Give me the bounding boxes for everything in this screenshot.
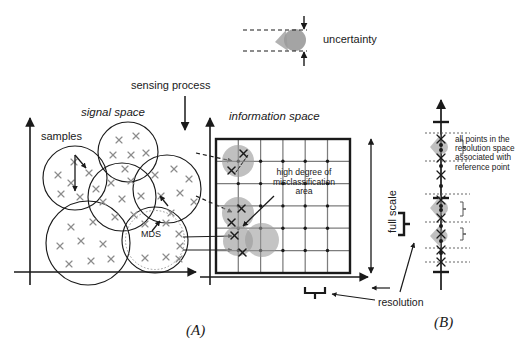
mds-pointer xyxy=(152,196,168,231)
full-scale-label: full scale xyxy=(386,190,398,233)
misclassification-blob xyxy=(222,197,254,229)
information-space-axes xyxy=(200,118,368,285)
samples-label: samples xyxy=(41,130,82,142)
misclassification-blob xyxy=(245,223,279,257)
diagram-vector-layer xyxy=(0,0,521,352)
reference-note-line-1: all points in the xyxy=(455,135,519,144)
sensing-process-label: sensing process xyxy=(131,79,211,91)
reference-point-note: all points in the resolution space assoc… xyxy=(455,135,519,172)
resolution-bracket-a xyxy=(305,287,375,300)
reference-note-line-2: resolution space xyxy=(455,144,519,153)
resolution-label: resolution xyxy=(378,297,424,309)
misclassification-label: high degree of misclassification area xyxy=(266,168,342,197)
signal-space-sample-marks xyxy=(55,133,197,267)
information-space-label: information space xyxy=(229,110,320,123)
caption-b: (B) xyxy=(434,314,453,331)
cluster-circle xyxy=(88,163,156,231)
uncertainty-label: uncertainty xyxy=(323,33,377,45)
reference-note-line-4: reference point xyxy=(455,163,519,172)
misclassification-blob xyxy=(222,145,254,177)
reference-note-line-3: associated with xyxy=(455,153,519,162)
samples-pointer xyxy=(75,155,86,191)
caption-a: (A) xyxy=(186,322,205,339)
mds-label: MDS xyxy=(141,229,161,239)
uncertainty-detail xyxy=(243,16,307,66)
misclassification-line-3: area xyxy=(266,187,342,197)
signal-space-label: signal space xyxy=(81,106,145,119)
figure-canvas: uncertainty sensing process signal space… xyxy=(0,0,521,352)
cluster-circle-mds-inner xyxy=(126,211,185,270)
resolution-space-axis xyxy=(425,100,470,290)
